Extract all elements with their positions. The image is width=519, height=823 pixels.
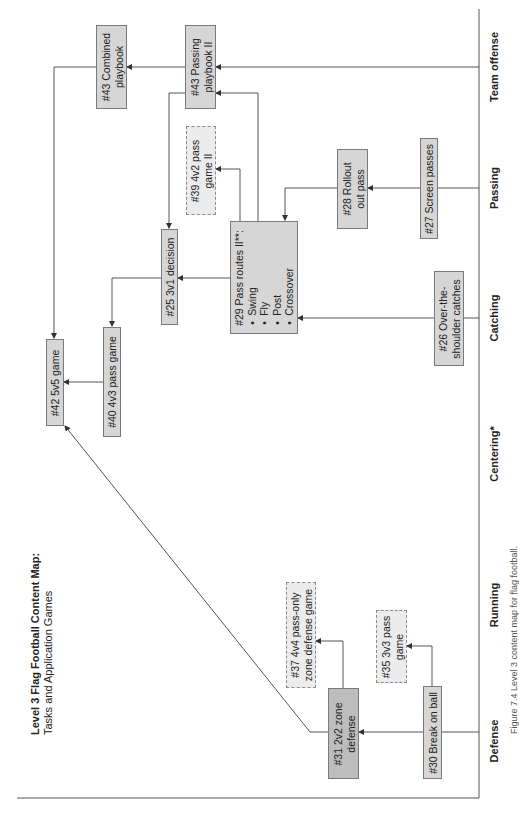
node-label: #25 3v1 decision <box>163 238 176 317</box>
figure-caption: Figure 7.4 Level 3 content map for flag … <box>509 546 519 734</box>
node-31-2v2-zone-defense: #31 2v2 zone defense <box>328 688 359 779</box>
column-label-defense: Defense <box>488 720 500 763</box>
title-subtitle: Tasks and Application Games <box>42 553 55 735</box>
title-main: Level 3 Flag Football Content Map: <box>29 553 42 735</box>
node-label: #40 4v3 pass game <box>106 336 119 428</box>
route-item-crossover: Crossover <box>283 230 296 316</box>
node-25-3v1-decision: #25 3v1 decision <box>161 229 178 325</box>
node-28-rollout-out-pass: #28 Rollout out pass <box>337 149 368 229</box>
node-label: #30 Break on ball <box>426 692 439 774</box>
node-label: #37 4v4 pass-only zone defense game <box>289 583 314 687</box>
route-item-swing: Swing <box>245 230 258 316</box>
node-label: #29 Pass routes II**: <box>233 230 246 326</box>
node-43-combined-playbook: #43 Combined playbook <box>96 25 127 109</box>
node-30-break-on-ball: #30 Break on ball <box>423 686 442 779</box>
column-label-centering: Centering* <box>488 426 500 482</box>
route-item-post: Post <box>270 230 283 316</box>
node-29-content: #29 Pass routes II**: Swing Fly Post Cro… <box>233 230 296 326</box>
diagram-title: Level 3 Flag Football Content Map: Tasks… <box>29 553 55 735</box>
node-label: #26 Over-the-shoulder catches <box>437 273 462 365</box>
node-label: #28 Rollout out pass <box>340 156 365 222</box>
node-label: #39 4v2 pass game II <box>189 131 214 211</box>
column-label-catching: Catching <box>488 294 500 341</box>
node-35-3v3-pass-game: #35 3v3 pass game <box>376 610 407 683</box>
node-37-4v4-pass-only-zone-defense-game: #37 4v4 pass-only zone defense game <box>286 582 316 688</box>
node-29-pass-routes-ii: #29 Pass routes II**: Swing Fly Post Cro… <box>230 221 298 334</box>
node-label: #35 3v3 pass game <box>379 615 404 679</box>
node-42-5v5-game: #42 5v5 game <box>46 339 64 426</box>
node-40-4v3-pass-game: #40 4v3 pass game <box>103 327 121 437</box>
node-label: #43 Combined playbook <box>99 28 124 106</box>
node-label: #27 Screen passes <box>423 144 436 234</box>
node-label: #43 Passing playbook II <box>188 28 213 106</box>
route-item-fly: Fly <box>258 230 271 316</box>
node-27-screen-passes: #27 Screen passes <box>420 138 438 239</box>
node-43-passing-playbook-ii: #43 Passing playbook II <box>185 25 216 109</box>
pass-routes-list: Swing Fly Post Crossover <box>245 230 295 326</box>
column-label-running: Running <box>488 583 500 628</box>
node-label: #31 2v2 zone defense <box>331 694 356 774</box>
node-39-4v2-pass-game-ii: #39 4v2 pass game II <box>186 126 216 215</box>
column-label-team-offense: Team offense <box>488 32 500 102</box>
node-26-over-the-shoulder-catches: #26 Over-the-shoulder catches <box>434 271 464 366</box>
node-label: #42 5v5 game <box>49 349 62 416</box>
column-label-passing: Passing <box>488 167 500 209</box>
